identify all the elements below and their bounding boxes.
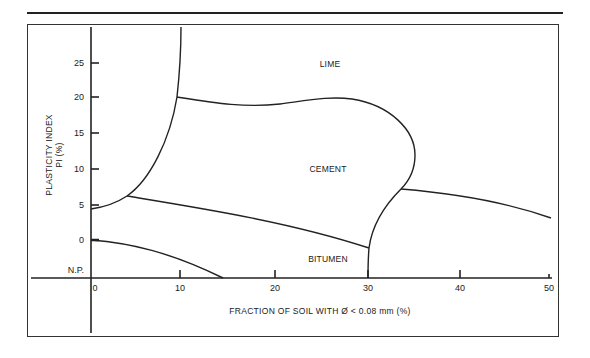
svg-text:15: 15 <box>74 128 84 138</box>
region-label-lime: LIME <box>320 59 341 69</box>
svg-text:20: 20 <box>270 283 280 293</box>
chart-svg: 25 20 15 10 5 0 N.P. 0 10 20 30 40 50 LI… <box>0 0 590 358</box>
x-axis-title: FRACTION OF SOIL WITH Ø < 0.08 mm (%) <box>229 306 411 316</box>
region-label-bitumen: BITUMEN <box>308 254 348 264</box>
y-ticks <box>91 63 99 240</box>
y-axis-title-line2: PI (%) <box>54 142 64 167</box>
cement-bitumen-right-boundary <box>368 189 401 278</box>
right-boundary <box>401 189 551 218</box>
svg-text:0: 0 <box>92 283 97 293</box>
svg-text:40: 40 <box>455 283 465 293</box>
svg-text:10: 10 <box>175 283 185 293</box>
x-tick-labels: 0 10 20 30 40 50 <box>92 283 554 293</box>
svg-text:0: 0 <box>79 235 84 245</box>
svg-text:25: 25 <box>74 58 84 68</box>
svg-text:30: 30 <box>363 283 373 293</box>
lime-cement-boundary <box>177 97 415 189</box>
y-tick-labels: 25 20 15 10 5 0 N.P. <box>68 58 84 275</box>
bitumen-lower-boundary <box>91 240 223 278</box>
left-envelope-curve <box>91 27 181 209</box>
svg-text:50: 50 <box>544 283 554 293</box>
y-axis-title-line1: PLASTICITY INDEX <box>44 114 54 196</box>
svg-text:5: 5 <box>79 200 84 210</box>
x-ticks <box>180 270 549 278</box>
region-label-cement: CEMENT <box>309 164 346 174</box>
cement-lower-boundary <box>127 196 369 248</box>
svg-text:10: 10 <box>74 164 84 174</box>
svg-text:N.P.: N.P. <box>68 265 84 275</box>
svg-text:20: 20 <box>74 92 84 102</box>
